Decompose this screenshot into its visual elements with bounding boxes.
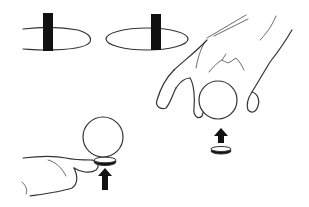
vertical-bar-icon bbox=[151, 14, 161, 50]
ellipse-outline-icon bbox=[23, 28, 91, 50]
ellipse-outline-icon bbox=[106, 28, 188, 50]
hand-holding-coin-under-ball bbox=[22, 117, 123, 196]
hand-gripping-ball bbox=[157, 15, 292, 154]
up-arrow-icon bbox=[214, 128, 228, 143]
illustration-svg bbox=[0, 0, 309, 207]
ball-icon bbox=[83, 117, 123, 157]
ellipse-diagram-right bbox=[106, 14, 188, 50]
ellipse-diagram-left bbox=[23, 13, 91, 51]
up-arrow-icon bbox=[98, 168, 112, 190]
vertical-bar-icon bbox=[43, 13, 53, 51]
ball-icon bbox=[199, 81, 237, 119]
illustration-canvas bbox=[0, 0, 309, 207]
